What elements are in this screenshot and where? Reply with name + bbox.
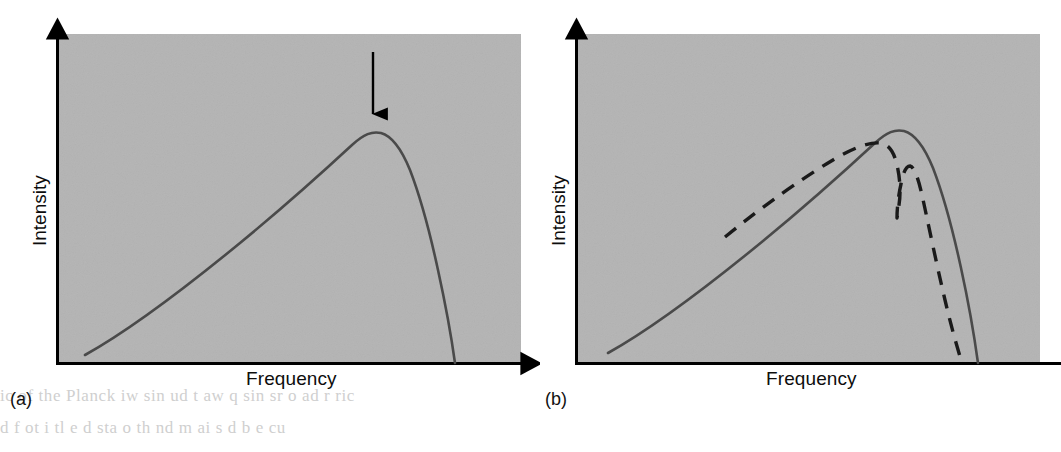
panel-caption-b: (b) — [545, 389, 567, 410]
panel-b: Frequency Intensity (b) — [520, 0, 1061, 452]
figure-blackbody-spectrum: ic of the Planck iw sin ud t aw q sin sr… — [0, 0, 1061, 452]
y-axis-label-a: Intensity — [29, 175, 51, 246]
x-axis-label-a: Frequency — [246, 368, 337, 390]
x-axis-label-b: Frequency — [766, 368, 857, 390]
panel-caption-a: (a) — [10, 389, 32, 410]
y-axis-label-b: Intensity — [548, 175, 570, 246]
panel-a: Frequency Intensity (a) — [0, 0, 540, 452]
